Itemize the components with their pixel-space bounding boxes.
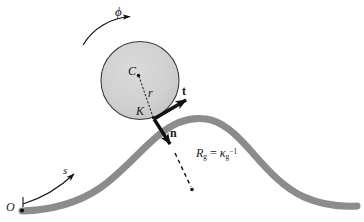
label-kappa-superscript: −1 (229, 147, 237, 156)
label-phi: ϕ (115, 5, 122, 18)
origin-dot (20, 208, 24, 212)
label-arclength: s (63, 165, 67, 176)
label-contact-point: K (136, 105, 144, 117)
label-radius: r (148, 87, 153, 99)
label-center-point: C (128, 65, 136, 77)
label-tangent-vector: t (182, 85, 186, 97)
label-normal-vector: n (170, 127, 177, 139)
label-radius-of-curvature: Rg = κg−1 (196, 147, 237, 161)
curvature-radius-dashed-line (175, 153, 194, 191)
label-origin: O (6, 201, 15, 213)
phi-rotation-arrow (83, 17, 130, 46)
figure-canvas: ϕ C r K t n Rg = κg−1 s O (0, 0, 364, 222)
label-Rg-equals: = (207, 146, 220, 160)
diagram-svg (0, 0, 364, 222)
ground-curve (22, 119, 357, 211)
